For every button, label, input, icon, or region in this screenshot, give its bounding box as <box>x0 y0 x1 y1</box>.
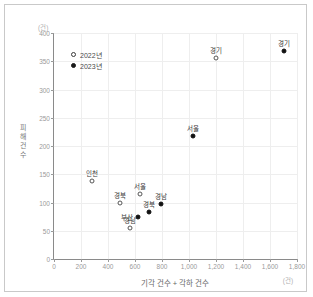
legend-item-label: 2022년 <box>80 50 102 60</box>
x-tick-mark <box>297 259 298 262</box>
gridline-horizontal <box>54 146 297 147</box>
gridline-horizontal <box>54 33 297 34</box>
x-tick-label: 1,200 <box>208 263 224 270</box>
data-point[interactable] <box>214 56 219 61</box>
x-tick-label: 600 <box>130 263 141 270</box>
chart-screenshot: (건) 피해 건수 기각 건수 + 각하 건수 (건) 020040060080… <box>0 0 313 297</box>
y-tick-label: 300 <box>39 86 50 93</box>
y-tick-label: 250 <box>39 114 50 121</box>
data-point[interactable] <box>118 200 123 205</box>
x-tick-label: 0 <box>52 263 56 270</box>
data-point[interactable] <box>281 49 286 54</box>
x-tick-mark <box>108 259 109 262</box>
x-tick-mark <box>162 259 163 262</box>
y-tick-label: 50 <box>43 227 50 234</box>
open-circle-icon <box>71 52 76 57</box>
chart-legend: 2022년2023년 <box>71 49 102 71</box>
y-tick-label: 100 <box>39 199 50 206</box>
y-tick-mark <box>51 90 54 91</box>
y-tick-label: 0 <box>46 256 50 263</box>
y-tick-mark <box>51 146 54 147</box>
y-tick-mark <box>51 259 54 260</box>
gridline-horizontal <box>54 203 297 204</box>
y-tick-mark <box>51 61 54 62</box>
data-point-label: 서울 <box>134 181 146 191</box>
x-tick-mark <box>243 259 244 262</box>
x-tick-mark <box>270 259 271 262</box>
x-tick-mark <box>135 259 136 262</box>
data-point[interactable] <box>146 210 151 215</box>
y-tick-mark <box>51 203 54 204</box>
x-tick-mark <box>54 259 55 262</box>
y-tick-mark <box>51 33 54 34</box>
legend-item[interactable]: 2023년 <box>71 60 102 71</box>
data-point-label: 경북 <box>143 199 155 209</box>
data-point[interactable] <box>138 192 143 197</box>
x-tick-label: 1,600 <box>262 263 278 270</box>
data-point-label: 부산 <box>121 212 133 222</box>
x-axis-title: 기각 건수 + 각하 건수 <box>141 277 210 288</box>
x-tick-label: 400 <box>103 263 114 270</box>
data-point[interactable] <box>158 202 163 207</box>
y-axis-title: 피해 건수 <box>18 123 28 159</box>
gridline-horizontal <box>54 118 297 119</box>
y-tick-label: 200 <box>39 143 50 150</box>
x-tick-mark <box>216 259 217 262</box>
x-tick-mark <box>189 259 190 262</box>
gridline-vertical <box>297 33 298 259</box>
data-point-label: 경기 <box>278 38 290 48</box>
y-tick-mark <box>51 231 54 232</box>
y-tick-label: 400 <box>39 30 50 37</box>
x-axis-unit-label: (건) <box>283 275 293 285</box>
x-tick-label: 1,000 <box>181 263 197 270</box>
x-tick-label: 1,400 <box>235 263 251 270</box>
data-point[interactable] <box>191 133 196 138</box>
filled-circle-icon <box>71 63 76 68</box>
y-tick-mark <box>51 118 54 119</box>
figure-frame: (건) 피해 건수 기각 건수 + 각하 건수 (건) 020040060080… <box>4 4 307 292</box>
data-point[interactable] <box>127 225 132 230</box>
gridline-horizontal <box>54 231 297 232</box>
x-tick-label: 800 <box>157 263 168 270</box>
y-tick-mark <box>51 174 54 175</box>
data-point[interactable] <box>135 214 140 219</box>
x-tick-label: 1,800 <box>289 263 305 270</box>
y-tick-label: 350 <box>39 58 50 65</box>
data-point-label: 인천 <box>86 168 98 178</box>
data-point-label: 경북 <box>114 190 126 200</box>
data-point-label: 경기 <box>210 45 222 55</box>
x-tick-label: 200 <box>76 263 87 270</box>
y-tick-label: 150 <box>39 171 50 178</box>
data-point[interactable] <box>89 179 94 184</box>
x-tick-mark <box>81 259 82 262</box>
legend-item[interactable]: 2022년 <box>71 49 102 60</box>
data-point-label: 경남 <box>155 191 167 201</box>
data-point-label: 서울 <box>187 123 199 133</box>
legend-item-label: 2023년 <box>80 61 102 71</box>
gridline-horizontal <box>54 90 297 91</box>
